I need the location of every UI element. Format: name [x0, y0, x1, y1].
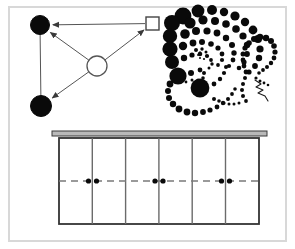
spiral-dot — [206, 55, 209, 58]
spiral-dot — [207, 107, 212, 112]
spiral-dot — [241, 58, 246, 63]
figure-root — [0, 0, 295, 249]
spiral-dot — [214, 30, 221, 37]
spiral-dot — [208, 41, 214, 47]
grid-marker-dot — [94, 178, 99, 183]
node-square — [146, 17, 159, 30]
spiral-dot — [241, 18, 249, 26]
spiral-dot — [166, 95, 172, 101]
spiral-dot — [165, 55, 179, 69]
spiral-dot — [212, 82, 217, 87]
spiral-dot — [205, 51, 208, 54]
spiral-dot — [226, 97, 230, 101]
spiral-dot — [220, 58, 224, 62]
spiral-dot — [251, 36, 257, 42]
spiral-dot — [244, 99, 248, 103]
top-rail — [52, 131, 267, 136]
spiral-dot — [217, 99, 221, 103]
spiral-dot — [233, 87, 237, 91]
spiral-dot — [180, 29, 190, 39]
spiral-dot — [199, 51, 201, 53]
spiral-dot — [241, 52, 246, 57]
spiral-dot — [242, 64, 247, 69]
spiral-dot — [210, 62, 213, 65]
spiral-dot — [272, 56, 277, 61]
spiral-dot — [272, 49, 277, 54]
spiral-dot — [209, 58, 213, 62]
cell-grid — [52, 131, 267, 224]
spiral-dot — [254, 76, 257, 79]
spiral-dot — [181, 55, 187, 61]
spiral-dot — [228, 103, 231, 106]
spiral-dot — [200, 47, 203, 50]
spiral-dot — [230, 11, 239, 20]
spiral-dot — [198, 15, 207, 24]
spiral-dot — [212, 97, 216, 101]
spiral-dot — [199, 39, 205, 45]
spiral-dot — [215, 105, 220, 110]
spiral-dot — [220, 52, 225, 57]
spiral-dot — [184, 17, 195, 28]
spiral-dot — [241, 82, 245, 86]
figure-canvas — [0, 0, 295, 249]
spiral-dot — [163, 29, 177, 43]
spiral-dot — [200, 109, 206, 115]
spiral-dot — [257, 34, 263, 40]
spiral-dot — [208, 67, 211, 70]
spiral-dot — [192, 110, 198, 116]
spiral-dot — [176, 106, 183, 113]
spiral-dot — [238, 102, 241, 105]
spiral-dot — [237, 66, 242, 71]
spiral-dot — [265, 65, 269, 69]
spiral-dot — [230, 92, 234, 96]
spiral-dot — [261, 68, 265, 72]
spiral-dot — [229, 42, 235, 48]
spiral-dot — [185, 81, 188, 84]
grid-marker-dot — [227, 178, 232, 183]
spiral-dot — [257, 71, 261, 75]
spiral-dot — [256, 55, 262, 61]
spiral-dot — [192, 27, 200, 35]
spiral-dot — [199, 57, 201, 59]
spiral-dot — [197, 54, 199, 56]
spiral-dot — [215, 45, 220, 50]
spiral-dot — [271, 43, 277, 49]
spiral-dot — [211, 17, 219, 25]
grid-marker-dot — [152, 178, 157, 183]
grid-marker-dot — [86, 178, 91, 183]
spiral-dot — [269, 61, 273, 65]
spiral-dot — [263, 82, 266, 85]
spiral-dot — [268, 38, 274, 44]
spiral-dot — [179, 42, 187, 50]
grid-marker-dot — [160, 178, 165, 183]
spiral-dot — [242, 45, 247, 50]
spiral-dot — [256, 45, 263, 52]
node-top-left — [31, 16, 50, 35]
spiral-dot — [207, 5, 217, 15]
spiral-dot — [249, 26, 258, 35]
spiral-dot — [162, 41, 177, 56]
spiral-dot — [231, 58, 236, 63]
spiral-dot — [240, 88, 244, 92]
spiral-dot — [241, 94, 245, 98]
spiral-dot — [246, 40, 252, 46]
spiral-dot — [164, 15, 180, 31]
spiral-dot — [216, 63, 220, 67]
spiral-dot — [191, 79, 210, 98]
spiral-dot — [190, 40, 197, 47]
spiral-dot — [224, 65, 228, 69]
spiral-dot — [267, 84, 270, 87]
spiral-dot — [223, 35, 229, 41]
spiral-dot — [184, 109, 191, 116]
grid-marker-dot — [219, 178, 224, 183]
spiral-dot — [222, 101, 225, 104]
spiral-dot — [203, 27, 210, 34]
spiral-dot — [243, 76, 247, 80]
spiral-dot — [218, 77, 222, 81]
node-center — [87, 56, 107, 76]
node-bottom-left — [31, 96, 52, 117]
spiral-dot — [233, 103, 236, 106]
spiral-dot — [191, 79, 194, 82]
spiral-dot — [203, 58, 205, 60]
spiral-dot — [194, 48, 198, 52]
